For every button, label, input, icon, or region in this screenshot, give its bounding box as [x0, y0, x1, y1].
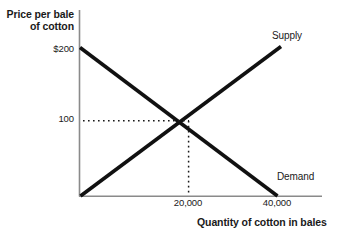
supply-demand-chart: Price per bale of cotton $200 100 20,000… — [0, 0, 344, 238]
x-tick-label-20000: 20,000 — [163, 198, 213, 209]
x-tick-label-40000: 40,000 — [252, 198, 302, 209]
y-tick-label-200: $200 — [26, 44, 74, 55]
x-axis-title: Quantity of cotton in bales — [197, 217, 327, 229]
y-axis-title-line1: Price per bale — [0, 9, 74, 21]
y-axis-title: Price per bale of cotton — [0, 9, 74, 33]
demand-curve-label: Demand — [277, 171, 314, 182]
supply-curve-label: Supply — [272, 30, 302, 41]
y-tick-label-100: 100 — [26, 114, 74, 125]
y-axis-title-line2: of cotton — [0, 21, 74, 33]
